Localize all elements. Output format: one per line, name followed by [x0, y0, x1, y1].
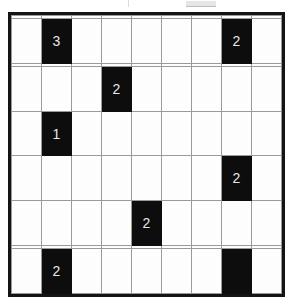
puzzle-grid-table: 3221222	[11, 15, 282, 294]
grid-cell-filled[interactable]: 3	[42, 18, 72, 63]
cell-clue-label: 2	[102, 82, 131, 96]
grid-cell-empty[interactable]	[252, 66, 282, 111]
grid-cell-empty[interactable]	[72, 201, 102, 246]
grid-cell-empty[interactable]	[252, 249, 282, 294]
grid-cell-filled[interactable]: 1	[42, 111, 72, 156]
grid-cell-empty[interactable]	[162, 111, 192, 156]
grid-cell-empty[interactable]	[132, 249, 162, 294]
cell-clue-label: 1	[42, 127, 71, 141]
grid-cell-empty[interactable]	[252, 111, 282, 156]
cell-clue-label: 2	[132, 216, 161, 230]
grid-cell-empty[interactable]	[192, 249, 222, 294]
grid-cell-empty[interactable]	[162, 249, 192, 294]
grid-cell-empty[interactable]	[192, 111, 222, 156]
grid-cell-empty[interactable]	[102, 156, 132, 201]
grid-cell-empty[interactable]	[192, 156, 222, 201]
grid-cell-empty[interactable]	[132, 156, 162, 201]
puzzle-grid-page: 3221222	[0, 0, 296, 307]
grid-row: 2	[12, 201, 282, 246]
grid-cell-empty[interactable]	[42, 201, 72, 246]
grid-cell-empty[interactable]	[102, 249, 132, 294]
grid-cell-filled[interactable]: 2	[222, 18, 252, 63]
grid-cell-empty[interactable]	[252, 156, 282, 201]
grid-cell-empty[interactable]	[12, 111, 42, 156]
grid-cell-empty[interactable]	[72, 18, 102, 63]
grid-cell-empty[interactable]	[42, 156, 72, 201]
grid-cell-empty[interactable]	[132, 18, 162, 63]
cell-clue-label: 3	[42, 34, 71, 48]
grid-cell-empty[interactable]	[192, 66, 222, 111]
grid-cell-empty[interactable]	[252, 18, 282, 63]
grid-cell-empty[interactable]	[162, 66, 192, 111]
grid-cell-empty[interactable]	[132, 111, 162, 156]
grid-cell-empty[interactable]	[162, 201, 192, 246]
grid-cell-empty[interactable]	[162, 18, 192, 63]
grid-cell-empty[interactable]	[132, 66, 162, 111]
grid-cell-filled[interactable]: 2	[42, 249, 72, 294]
cell-clue-label: 2	[222, 171, 251, 185]
grid-row: 2	[12, 249, 282, 294]
grid-cell-empty[interactable]	[12, 156, 42, 201]
cell-clue-label: 2	[222, 34, 251, 48]
grid-cell-empty[interactable]	[42, 66, 72, 111]
puzzle-grid-frame: 3221222	[8, 12, 285, 297]
scan-artifact-underline	[186, 6, 216, 7]
puzzle-grid-body: 3221222	[12, 16, 282, 294]
grid-row: 1	[12, 111, 282, 156]
grid-cell-empty[interactable]	[12, 201, 42, 246]
grid-row: 2	[12, 156, 282, 201]
grid-row: 32	[12, 18, 282, 63]
grid-cell-empty[interactable]	[102, 111, 132, 156]
grid-cell-empty[interactable]	[12, 249, 42, 294]
grid-cell-filled[interactable]: 2	[102, 66, 132, 111]
grid-cell-empty[interactable]	[222, 201, 252, 246]
cell-clue-label: 2	[42, 264, 71, 278]
grid-cell-empty[interactable]	[72, 66, 102, 111]
grid-cell-empty[interactable]	[192, 201, 222, 246]
grid-cell-empty[interactable]	[192, 18, 222, 63]
grid-cell-filled[interactable]: 2	[132, 201, 162, 246]
grid-cell-empty[interactable]	[102, 18, 132, 63]
scan-artifact-mark	[128, 0, 129, 7]
grid-cell-empty[interactable]	[12, 66, 42, 111]
grid-row: 2	[12, 66, 282, 111]
grid-cell-empty[interactable]	[222, 111, 252, 156]
grid-cell-filled[interactable]: 2	[222, 156, 252, 201]
grid-cell-filled[interactable]	[222, 249, 252, 294]
grid-cell-empty[interactable]	[72, 156, 102, 201]
grid-cell-empty[interactable]	[252, 201, 282, 246]
grid-cell-empty[interactable]	[72, 249, 102, 294]
grid-cell-empty[interactable]	[12, 18, 42, 63]
grid-cell-empty[interactable]	[72, 111, 102, 156]
grid-cell-empty[interactable]	[162, 156, 192, 201]
grid-cell-empty[interactable]	[222, 66, 252, 111]
grid-cell-empty[interactable]	[102, 201, 132, 246]
